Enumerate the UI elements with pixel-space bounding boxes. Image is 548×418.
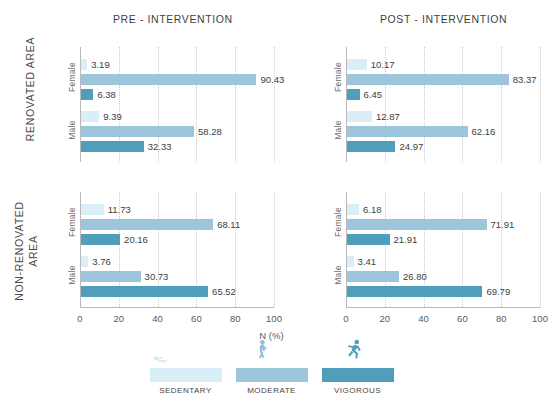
bar: [81, 204, 104, 215]
bar-value-label: 30.73: [145, 272, 169, 282]
bar-value-label: 62.16: [472, 127, 496, 137]
bar-value-label: 24.97: [399, 142, 423, 152]
bar: [347, 141, 395, 152]
bar-value-label: 12.87: [376, 112, 400, 122]
x-tick-label: 60: [191, 313, 202, 324]
gridline: [501, 47, 502, 162]
x-tick-label: 20: [380, 313, 391, 324]
chart-panel: 6.1871.9121.91Female3.4126.8069.79Male02…: [346, 192, 540, 307]
legend-label: MODERATE: [247, 386, 296, 395]
bar-value-label: 3.19: [91, 60, 110, 70]
bar: [81, 59, 87, 70]
x-axis-line: [80, 307, 274, 308]
bar: [81, 141, 144, 152]
x-tick-label: 0: [77, 313, 82, 324]
bar: [347, 271, 399, 282]
bar-value-label: 68.11: [217, 220, 240, 230]
x-tick-label: 100: [532, 313, 548, 324]
legend-item[interactable]: VIGOROUS: [320, 352, 396, 395]
bar: [81, 74, 256, 85]
group-label-female: Female: [67, 54, 77, 100]
group-label-male: Male: [67, 107, 77, 153]
bar: [347, 234, 390, 245]
chart-panel: 10.1783.376.45Female12.8762.1624.97Male: [346, 47, 540, 162]
bar: [81, 126, 194, 137]
bar-value-label: 3.76: [92, 257, 111, 267]
x-axis-line: [346, 307, 540, 308]
legend-swatch: [236, 368, 308, 382]
group-label-female: Female: [333, 199, 343, 245]
bar: [81, 286, 208, 297]
legend-art: [236, 352, 308, 382]
bar: [81, 219, 213, 230]
bar-value-label: 6.45: [364, 90, 383, 100]
bar-value-label: 6.38: [97, 90, 116, 100]
bar-value-label: 3.41: [358, 257, 377, 267]
group-label-female: Female: [67, 199, 77, 245]
bar: [347, 89, 360, 100]
bar-value-label: 65.52: [212, 287, 236, 297]
legend-swatch: [150, 368, 222, 382]
legend-item[interactable]: SEDENTARY: [148, 352, 224, 395]
gridline: [274, 47, 275, 162]
bar: [347, 219, 487, 230]
column-title-pre-intervention: PRE - INTERVENTION: [113, 13, 233, 25]
sedentary-person-icon: [150, 345, 170, 369]
x-tick-label: 80: [496, 313, 507, 324]
legend-label: VIGOROUS: [334, 386, 381, 395]
x-tick-label: 80: [230, 313, 241, 324]
group-label-male: Male: [67, 252, 77, 298]
plot-area: 6.1871.9121.91Female3.4126.8069.79Male02…: [346, 192, 540, 307]
bar-value-label: 71.91: [491, 220, 515, 230]
bar: [347, 126, 468, 137]
bar-value-label: 26.80: [403, 272, 427, 282]
legend-swatch: [322, 368, 394, 382]
legend-item[interactable]: MODERATE: [234, 352, 310, 395]
gridline: [540, 192, 541, 307]
chart-legend: SEDENTARYMODERATEVIGOROUS: [0, 352, 543, 395]
bar: [347, 59, 367, 70]
x-tick-label: 100: [266, 313, 282, 324]
plot-area: 3.1990.436.38Female9.3958.2832.33Male: [80, 47, 274, 162]
legend-art: [150, 352, 222, 382]
x-axis-caption: N (%): [0, 330, 543, 341]
bar-value-label: 83.37: [513, 75, 537, 85]
running-person-icon: [342, 339, 366, 369]
bar: [347, 111, 372, 122]
bar-value-label: 90.43: [260, 75, 284, 85]
bar-value-label: 21.91: [394, 235, 418, 245]
plot-area: 11.7368.1120.16Female3.7630.7365.52Male0…: [80, 192, 274, 307]
bar: [81, 271, 141, 282]
bar-value-label: 11.73: [108, 205, 131, 215]
bar-value-label: 10.17: [371, 60, 395, 70]
bar: [81, 89, 93, 100]
x-tick-label: 20: [114, 313, 125, 324]
chart-panel: 11.7368.1120.16Female3.7630.7365.52Male0…: [80, 192, 274, 307]
bar: [81, 234, 120, 245]
gridline: [196, 47, 197, 162]
column-title-post-intervention: POST - INTERVENTION: [380, 13, 507, 25]
bar: [347, 256, 354, 267]
bar-value-label: 32.33: [148, 142, 172, 152]
gridline: [274, 192, 275, 307]
gridline: [462, 47, 463, 162]
group-label-female: Female: [333, 54, 343, 100]
bar-value-label: 20.16: [124, 235, 148, 245]
plot-area: 10.1783.376.45Female12.8762.1624.97Male: [346, 47, 540, 162]
gridline: [540, 47, 541, 162]
x-tick-label: 40: [152, 313, 163, 324]
bar: [347, 286, 482, 297]
row-title-renovated-area: RENOVATED AREA: [23, 29, 37, 149]
bar: [81, 111, 99, 122]
bar-value-label: 6.18: [363, 205, 382, 215]
bar-value-label: 58.28: [198, 127, 222, 137]
x-tick-label: 0: [343, 313, 348, 324]
walking-person-icon: [252, 339, 272, 369]
x-tick-label: 40: [418, 313, 429, 324]
bar: [347, 74, 509, 85]
bar-value-label: 9.39: [103, 112, 122, 122]
chart-panel: 3.1990.436.38Female9.3958.2832.33Male: [80, 47, 274, 162]
gridline: [235, 47, 236, 162]
legend-art: [322, 352, 394, 382]
